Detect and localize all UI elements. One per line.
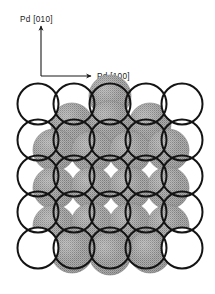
overlayer-atom-shading — [147, 167, 189, 209]
structure-diagram-svg: Pd [010] Pd [100] — [0, 0, 215, 294]
axis-label-vertical: Pd [010] — [20, 15, 53, 24]
overlayer-atom-shading — [147, 129, 189, 171]
